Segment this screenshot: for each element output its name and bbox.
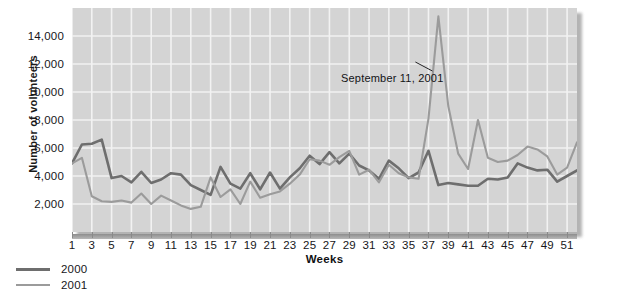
x-tick-label: 47 — [521, 239, 534, 251]
x-tick-mark — [270, 232, 271, 238]
x-tick-label: 17 — [224, 239, 237, 251]
y-tick-label: 10,000 — [28, 86, 64, 98]
x-tick-label: 5 — [108, 239, 115, 251]
x-tick-label: 51 — [560, 239, 573, 251]
y-axis-tick-labels: 2,0004,0006,0008,00010,00012,00014,000 — [0, 0, 68, 240]
annotation-september-11: September 11, 2001 — [341, 72, 443, 84]
x-tick-mark — [310, 232, 311, 238]
volunteers-line-chart: Number of volunteers 2,0004,0006,0008,00… — [0, 0, 630, 295]
x-tick-label: 49 — [541, 239, 554, 251]
x-tick-mark — [151, 232, 152, 238]
x-tick-mark — [468, 232, 469, 238]
legend-label-2001: 2001 — [61, 279, 87, 291]
x-tick-label: 39 — [442, 239, 455, 251]
legend-label-2000: 2000 — [61, 263, 87, 275]
x-tick-mark — [508, 232, 509, 238]
y-tick-label: 14,000 — [28, 30, 64, 42]
x-tick-label: 43 — [481, 239, 494, 251]
x-tick-mark — [112, 232, 113, 238]
y-tick-label: 6,000 — [34, 142, 64, 154]
x-tick-label: 9 — [148, 239, 155, 251]
y-tick-label: 4,000 — [34, 170, 64, 182]
x-tick-mark — [567, 232, 568, 238]
y-tick-label: 12,000 — [28, 58, 64, 70]
x-tick-mark — [290, 232, 291, 238]
x-tick-mark — [250, 232, 251, 238]
x-tick-label: 35 — [402, 239, 415, 251]
x-tick-label: 11 — [165, 239, 177, 251]
x-tick-mark — [527, 232, 528, 238]
y-tick-label: 8,000 — [34, 114, 64, 126]
chart-legend: 2000 2001 — [16, 261, 216, 293]
x-tick-label: 25 — [303, 239, 316, 251]
x-tick-label: 15 — [204, 239, 217, 251]
x-tick-mark — [389, 232, 390, 238]
x-tick-label: 37 — [422, 239, 435, 251]
x-tick-mark — [230, 232, 231, 238]
x-tick-mark — [131, 232, 132, 238]
x-tick-mark — [547, 232, 548, 238]
x-tick-label: 31 — [362, 239, 375, 251]
x-tick-mark — [349, 232, 350, 238]
x-tick-label: 7 — [128, 239, 135, 251]
x-tick-label: 13 — [184, 239, 197, 251]
x-tick-label: 33 — [382, 239, 395, 251]
x-tick-mark — [369, 232, 370, 238]
x-tick-mark — [488, 232, 489, 238]
legend-item-2001: 2001 — [16, 277, 216, 293]
x-tick-label: 19 — [244, 239, 257, 251]
x-tick-label: 1 — [69, 239, 76, 251]
legend-item-2000: 2000 — [16, 261, 216, 277]
x-tick-mark — [92, 232, 93, 238]
x-tick-mark — [191, 232, 192, 238]
x-tick-mark — [428, 232, 429, 238]
y-tick-label: 2,000 — [34, 198, 64, 210]
legend-swatch-2001-icon — [16, 284, 50, 286]
x-tick-label: 41 — [461, 239, 474, 251]
x-tick-label: 29 — [343, 239, 356, 251]
x-tick-label: 3 — [88, 239, 95, 251]
x-tick-mark — [448, 232, 449, 238]
x-tick-label: 23 — [283, 239, 296, 251]
x-tick-label: 27 — [323, 239, 336, 251]
x-tick-label: 21 — [263, 239, 276, 251]
x-tick-mark — [329, 232, 330, 238]
x-tick-mark — [211, 232, 212, 238]
legend-swatch-2000-icon — [16, 268, 50, 271]
x-tick-label: 45 — [501, 239, 514, 251]
x-tick-mark — [171, 232, 172, 238]
x-tick-mark — [409, 232, 410, 238]
plot-canvas — [72, 8, 577, 232]
plot-area — [72, 8, 577, 232]
x-tick-mark — [72, 232, 73, 238]
